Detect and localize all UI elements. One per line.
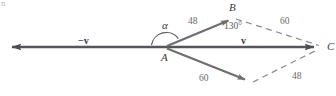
magnitude-label-ab: 48 [188,17,198,27]
vector-label-v: v [241,36,246,46]
magnitude-label-bc: 60 [280,17,290,27]
diagram-canvas [0,0,336,96]
magnitude-label-dc: 48 [292,72,302,82]
dashed-segment-dc [253,49,319,82]
point-label-b: B [229,2,236,13]
vector-label-negative-v: −v [78,36,89,46]
point-label-c: C [327,41,334,52]
dashed-segment-bc [236,19,319,46]
angle-label-at-b: 130° [224,22,242,32]
angle-label-alpha: α [162,20,168,31]
magnitude-label-ad: 60 [199,74,209,84]
point-label-a: A [161,52,168,63]
vector-diagram: n A B C −v v [0,0,336,96]
